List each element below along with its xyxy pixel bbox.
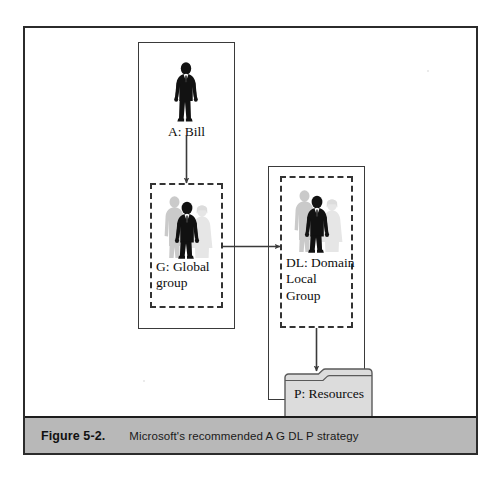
diagram-canvas: A: Bill G: Global group DL: Domain Local… [25, 28, 476, 418]
figure-caption-number: Figure 5-2. [41, 429, 105, 443]
node-label-domain-local-group: DL: Domain Local Group [286, 255, 362, 304]
figure-root: A: Bill G: Global group DL: Domain Local… [0, 0, 501, 481]
node-label-global-group: G: Global group [156, 259, 226, 292]
scan-speckle [427, 70, 429, 72]
arrow-layer [25, 28, 476, 418]
node-label-account: A: Bill [138, 124, 235, 140]
single-person-icon [169, 61, 203, 123]
figure-caption-text: Microsoft's recommended A G DL P strateg… [129, 430, 358, 442]
node-label-resources: P: Resources [287, 386, 371, 402]
person-group-icon [159, 194, 217, 260]
scan-speckle [143, 380, 145, 382]
person-group-icon [289, 188, 347, 254]
figure-caption-bar: Figure 5-2. Microsoft's recommended A G … [25, 416, 476, 453]
figure-frame: A: Bill G: Global group DL: Domain Local… [23, 26, 478, 455]
